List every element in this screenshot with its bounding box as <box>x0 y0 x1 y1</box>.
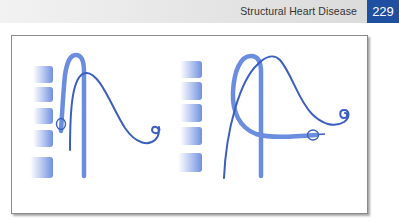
vertebra-block <box>180 127 202 145</box>
vertebra-block <box>33 108 53 124</box>
sheath-tip <box>318 134 325 135</box>
sheath-catheter <box>61 55 84 176</box>
vertebra-block <box>180 61 202 78</box>
guidewire <box>224 57 349 178</box>
vertebra-block <box>180 104 202 122</box>
vertebra-block <box>33 87 53 102</box>
vertebrae-right <box>178 61 202 172</box>
sheath-catheter <box>233 56 316 176</box>
vertebra-block <box>178 153 202 172</box>
catheter-illustration <box>0 0 399 222</box>
vertebra-block <box>180 82 202 100</box>
vertebra-block <box>30 157 53 178</box>
left-panel <box>30 55 159 178</box>
vertebra-block <box>33 130 53 147</box>
vertebra-block <box>33 66 53 83</box>
right-panel <box>178 56 349 178</box>
vertebrae-left <box>30 66 53 178</box>
